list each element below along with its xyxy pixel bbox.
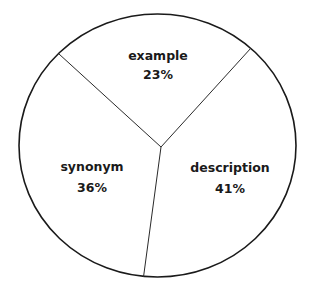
slice-label-description: description	[190, 160, 269, 175]
slice-label-example: example	[128, 48, 188, 63]
slice-label-synonym: synonym	[60, 159, 123, 174]
slice-value-description: 41%	[215, 181, 245, 196]
slice-value-example: 23%	[143, 67, 173, 82]
slice-value-synonym: 36%	[77, 180, 107, 195]
pie-chart: example 23% description 41% synonym 36%	[0, 0, 314, 295]
